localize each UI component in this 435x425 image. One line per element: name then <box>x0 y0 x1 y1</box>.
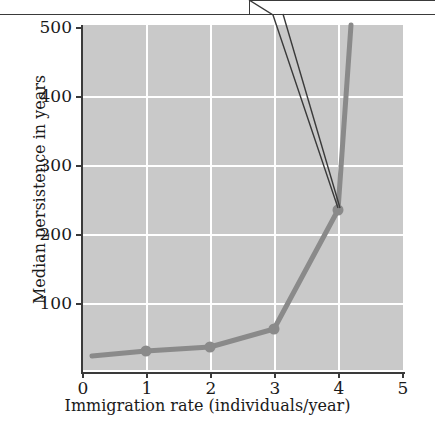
data-point-2 <box>205 342 216 353</box>
callout-leader-line <box>249 0 338 208</box>
callout-leader-line-second <box>283 14 340 208</box>
y-axis-label: Median persistence in years <box>30 60 49 320</box>
x-axis-label: Immigration rate (individuals/year) <box>0 396 415 415</box>
chart-overlay <box>0 0 435 425</box>
chart-figure: 0 1 2 3 4 5 100 200 300 400 500 Median p… <box>0 0 435 425</box>
data-point-1 <box>141 346 152 357</box>
data-point-3 <box>269 324 280 335</box>
data-line <box>92 25 351 356</box>
